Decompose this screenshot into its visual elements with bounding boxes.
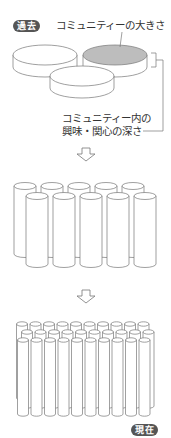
thin-cylinder-front — [58, 338, 69, 416]
community-size-label: コミュニティーの大きさ — [56, 19, 165, 32]
disc-front — [50, 66, 114, 98]
past-badge: 過去 — [13, 20, 40, 32]
tall-cylinder-front — [134, 193, 156, 268]
interest-depth-label-line1: コミュニティー内の — [62, 112, 151, 125]
thin-cylinder-front — [45, 338, 56, 416]
thin-cylinder-front — [112, 338, 123, 416]
down-arrow-2 — [77, 290, 95, 303]
tall-cylinder-front — [80, 193, 102, 268]
down-arrow-1 — [77, 148, 95, 161]
interest-depth-label-line2: 興味・関心の深さ — [62, 125, 142, 138]
thin-cylinder-front — [126, 338, 137, 416]
size-pointer-line — [120, 32, 122, 47]
tall-cylinder-front — [107, 193, 129, 268]
diagram-canvas — [0, 0, 171, 438]
depth-bracket — [151, 53, 156, 67]
thin-cylinder-front — [31, 338, 42, 416]
thin-cylinder-front — [85, 338, 96, 416]
thin-cylinder-front — [72, 338, 83, 416]
thin-cylinder-front — [99, 338, 110, 416]
tall-cylinder-front — [53, 193, 75, 268]
thin-cylinder-front — [18, 338, 29, 416]
tall-cylinder-front — [26, 193, 48, 268]
present-badge: 現在 — [131, 424, 158, 436]
thin-cylinder-front — [139, 338, 150, 416]
